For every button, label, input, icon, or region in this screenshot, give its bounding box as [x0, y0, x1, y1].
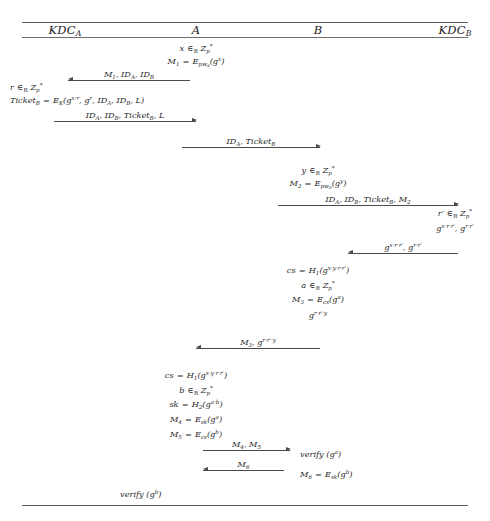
arrow-line — [203, 450, 290, 451]
actor-header-b: B — [314, 23, 323, 37]
actor-header-a: A — [192, 23, 201, 37]
message-label: IDA, IDB, TicketB, M2 — [325, 194, 410, 204]
arrow-head-icon — [203, 467, 208, 471]
arrow-head-icon — [68, 77, 73, 81]
arrow-head-icon — [192, 118, 197, 122]
top-rule — [22, 22, 468, 23]
note-a-random-x: x ∈R Zp* — [179, 44, 212, 54]
note-a-random-b: b ∈R Zp* — [179, 386, 213, 396]
note-a-cs: cs = H1(gx·y·r·r′) — [165, 371, 227, 380]
header-rule — [22, 37, 468, 38]
note-b-m2: M2 = EpwB(gy) — [290, 179, 347, 188]
message-label: IDA, IDB, TicketB, L — [86, 110, 165, 120]
note-kdcb-random-rprime: r′ ∈R Zp* — [438, 209, 472, 219]
arrow-head-icon — [454, 202, 459, 206]
protocol-sequence-diagram: KDCA A B KDCB x ∈R Zp* M1 = EpwA(gx) r ∈… — [0, 0, 490, 521]
note-b-verify-ga: verify (ga) — [300, 450, 341, 459]
note-b-random-y: y ∈R Zp* — [301, 166, 334, 176]
note-b-m3: M3 = Ecs(ga) — [292, 295, 344, 304]
note-kdca-random-r: r ∈R Zp* — [10, 83, 42, 93]
arrow-head-icon — [348, 250, 353, 254]
arrow-head-icon — [286, 447, 291, 451]
message-label: M3, gr·r′·y — [240, 337, 276, 347]
arrow-line — [196, 348, 320, 349]
actor-header-kdc-a: KDCA — [48, 23, 81, 37]
actor-header-kdc-b: KDCB — [438, 23, 471, 37]
note-a-verify-gb: verify (gb) — [120, 490, 161, 499]
arrow-line — [54, 121, 196, 122]
message-label: M6 — [238, 459, 250, 469]
message-label: M4, M5 — [232, 439, 261, 449]
message-label: IDA, TicketB — [227, 136, 276, 146]
note-a-m4: M4 = Esk(ga) — [170, 415, 222, 424]
message-label: M1, IDA, IDB — [104, 69, 154, 79]
note-a-m1: M1 = EpwA(gx) — [168, 57, 225, 66]
note-kdcb-powers: gx·r·r′, gr·r′ — [436, 224, 473, 233]
note-b-m6: M6 = Esk(gb) — [300, 470, 352, 479]
bottom-rule — [22, 505, 468, 506]
note-kdca-ticket-b: TicketB = EK(gx·r, gr, IDA, IDB, L) — [10, 96, 144, 105]
arrow-head-icon — [316, 144, 321, 148]
arrow-line — [203, 470, 284, 471]
arrow-head-icon — [196, 345, 201, 349]
arrow-line — [182, 147, 320, 148]
note-b-cs: cs = H1(gx·y·r·r′) — [287, 266, 349, 275]
arrow-line — [278, 205, 458, 206]
message-label: gx·r·r′, gr·r′ — [384, 242, 421, 252]
note-a-sk: sk = H2(ga·b) — [169, 400, 222, 409]
note-a-m5: M5 = Ecs(gb) — [170, 430, 222, 439]
arrow-line — [68, 80, 190, 81]
note-b-power-rry: gr·r′·y — [309, 311, 328, 320]
arrow-line — [348, 253, 458, 254]
note-b-random-a: a ∈R Zp* — [301, 281, 334, 291]
